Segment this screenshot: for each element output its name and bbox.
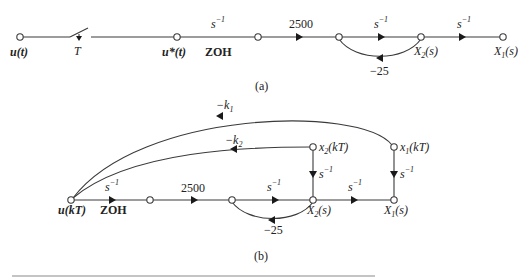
gain-x2-delay: s−1 <box>319 165 333 181</box>
arrow-icon <box>351 196 358 204</box>
arrow-icon <box>390 171 398 178</box>
label-x2: X2(s) <box>413 44 438 60</box>
gain-k1: −k1 <box>216 98 233 114</box>
label-x1-kT: x1(kT) <box>399 140 429 156</box>
arrow-icon <box>296 33 303 41</box>
edge-feedback-25 <box>232 202 313 219</box>
label-zoh: ZOH <box>205 45 232 59</box>
gain-zoh: s−1 <box>105 178 119 194</box>
gain-feedback: −25 <box>264 223 283 237</box>
gain-feedback: −25 <box>370 64 389 78</box>
caption-b: (b) <box>254 249 268 263</box>
caption-a: (a) <box>255 79 268 93</box>
arrow-icon <box>216 112 223 120</box>
gain-2500: 2500 <box>289 17 313 31</box>
arrow-icon <box>378 33 385 41</box>
node-x1 <box>500 34 506 40</box>
gain-int1: s−1 <box>267 178 281 194</box>
diagram-b: u(kT) ZOH s−1 2500 s−1 −25 s−1 s−1 s−1 −… <box>58 98 429 263</box>
gain-int2: s−1 <box>348 178 362 194</box>
gain-int1: s−1 <box>374 15 388 31</box>
node-x2-kT <box>310 144 316 150</box>
label-u-star: u*(t) <box>162 45 186 59</box>
arrow-icon <box>376 54 383 62</box>
label-x1: X1(s) <box>383 203 408 219</box>
diagram-a: u(t) T u*(t) ZOH s−1 2500 s−1 −25 s−1 X2… <box>10 15 518 93</box>
signal-flow-graphs: u(t) T u*(t) ZOH s−1 2500 s−1 −25 s−1 X2… <box>0 0 527 280</box>
edge-feedback-25 <box>339 39 421 56</box>
gain-k2: −k2 <box>225 133 242 149</box>
label-sample-period: T <box>74 44 82 58</box>
gain-x1-delay: s−1 <box>400 165 414 181</box>
gain-2500: 2500 <box>181 181 205 195</box>
arrow-icon <box>191 196 198 204</box>
label-u-kT: u(kT) <box>58 203 86 217</box>
arrow-icon <box>459 33 466 41</box>
node-zoh-out <box>255 34 261 40</box>
node-u-star <box>174 34 180 40</box>
sampler-switch-icon <box>70 28 88 41</box>
label-u-t: u(t) <box>10 45 28 59</box>
node-gain-out <box>336 34 342 40</box>
gain-zoh: s−1 <box>211 15 225 31</box>
arrow-icon <box>272 196 279 204</box>
node-x1-kT <box>391 144 397 150</box>
node-gain-out <box>229 197 235 203</box>
arrow-icon <box>309 171 317 178</box>
node-x2 <box>418 34 424 40</box>
gain-int2: s−1 <box>457 15 471 31</box>
label-zoh: ZOH <box>100 203 127 217</box>
label-x2: X2(s) <box>306 203 331 219</box>
label-x2-kT: x2(kT) <box>318 140 348 156</box>
node-u-t <box>17 34 23 40</box>
label-x1: X1(s) <box>493 44 518 60</box>
node-zoh-out <box>147 197 153 203</box>
